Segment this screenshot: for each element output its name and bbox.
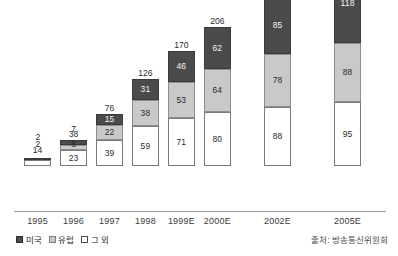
- segment-value-label: 80: [213, 135, 223, 144]
- source-note: 출처: 방송통신위원회: [311, 233, 388, 245]
- segment-value-label: 71: [177, 138, 187, 147]
- bar-segment-other[interactable]: [24, 160, 51, 166]
- x-tick-1999E: 1999E: [168, 216, 195, 226]
- segment-value-label: 46: [177, 62, 187, 71]
- x-tick-1996: 1996: [63, 216, 84, 226]
- bar-segment-eu[interactable]: 78: [264, 54, 291, 107]
- bar-total-label: 170: [174, 41, 188, 50]
- bar-segment-other[interactable]: 95: [334, 102, 361, 166]
- x-tick-2002E: 2002E: [264, 216, 291, 226]
- bar-2002E[interactable]: 857888251: [264, 0, 291, 211]
- legend-item-us[interactable]: 미국: [16, 233, 42, 245]
- bar-2000E[interactable]: 626480206: [204, 0, 231, 211]
- bar-1996[interactable]: 233822: [60, 0, 87, 211]
- bar-stack: 152239: [96, 114, 123, 166]
- bar-segment-other[interactable]: 23: [60, 150, 87, 166]
- segment-value-label: 53: [177, 96, 187, 105]
- bar-1997[interactable]: 1522397687: [96, 0, 123, 211]
- bar-external-value-label: 2: [35, 140, 40, 149]
- bar-1995[interactable]: 14: [24, 0, 51, 211]
- legend-label: 미국: [26, 233, 42, 245]
- segment-value-label: 62: [213, 44, 223, 53]
- bar-segment-us[interactable]: 85: [264, 0, 291, 54]
- segment-value-label: 31: [141, 85, 151, 94]
- bar-stack: 465371: [168, 51, 195, 166]
- x-tick-1998: 1998: [135, 216, 156, 226]
- bar-total-label: 76: [105, 104, 114, 113]
- segment-value-label: 118: [341, 0, 355, 7]
- bar-total-label: 126: [138, 69, 152, 78]
- legend-swatch-other-icon: [81, 236, 88, 243]
- bar-segment-us[interactable]: 46: [168, 51, 195, 82]
- legend-swatch-eu-icon: [49, 236, 56, 243]
- segment-value-label: 85: [273, 21, 283, 30]
- bar-segment-eu[interactable]: 64: [204, 69, 231, 112]
- segment-value-label: 15: [105, 115, 115, 124]
- legend-label: 그 외: [91, 233, 109, 245]
- segment-value-label: 59: [141, 142, 151, 151]
- x-tick-1995: 1995: [27, 216, 48, 226]
- bar-segment-eu[interactable]: 53: [168, 82, 195, 118]
- bar-1999E[interactable]: 465371170: [168, 0, 195, 211]
- bar-segment-us[interactable]: 15: [96, 114, 123, 125]
- bar-segment-other[interactable]: 59: [132, 126, 159, 166]
- bar-segment-us[interactable]: 31: [132, 79, 159, 100]
- x-tick-1997: 1997: [99, 216, 120, 226]
- bar-1998[interactable]: 313859126: [132, 0, 159, 211]
- bar-total-label: 206: [210, 17, 224, 26]
- bar-stack: [24, 158, 51, 166]
- segment-value-label: 95: [343, 130, 353, 139]
- bar-segment-us[interactable]: 118: [334, 0, 361, 43]
- bar-external-value-label: 7: [71, 125, 76, 134]
- bar-segment-eu[interactable]: 22: [96, 125, 123, 140]
- bar-stack: 626480: [204, 27, 231, 166]
- chart-legend: 미국유럽그 외: [16, 233, 109, 245]
- segment-value-label: 38: [141, 109, 151, 118]
- segment-value-label: 78: [273, 76, 283, 85]
- x-axis-line: [14, 211, 386, 212]
- bar-segment-other[interactable]: 39: [96, 140, 123, 166]
- legend-item-eu[interactable]: 유럽: [49, 233, 75, 245]
- bar-stack: 1188895: [334, 0, 361, 166]
- segment-value-label: 22: [105, 128, 115, 137]
- bar-segment-eu[interactable]: 88: [334, 43, 361, 102]
- chart-figure: 1423382215223976873138591264653711706264…: [0, 0, 398, 256]
- bar-segment-other[interactable]: 71: [168, 118, 195, 166]
- bar-stack: 857888: [264, 0, 291, 166]
- legend-swatch-us-icon: [16, 236, 23, 243]
- bar-segment-other[interactable]: 88: [264, 107, 291, 166]
- segment-value-label: 39: [105, 149, 115, 158]
- bar-segment-eu[interactable]: 38: [132, 100, 159, 126]
- legend-item-other[interactable]: 그 외: [81, 233, 109, 245]
- bar-segment-other[interactable]: 80: [204, 112, 231, 166]
- bar-external-value-label: 8: [71, 140, 76, 149]
- segment-value-label: 64: [213, 86, 223, 95]
- bar-stack: 313859: [132, 79, 159, 166]
- bar-segment-us[interactable]: 62: [204, 27, 231, 69]
- segment-value-label: 88: [273, 132, 283, 141]
- segment-value-label: 23: [69, 154, 79, 163]
- legend-label: 유럽: [58, 233, 74, 245]
- bar-2005E[interactable]: 1188895301: [334, 0, 361, 211]
- segment-value-label: 88: [343, 68, 353, 77]
- x-tick-2000E: 2000E: [204, 216, 231, 226]
- x-tick-2005E: 2005E: [334, 216, 361, 226]
